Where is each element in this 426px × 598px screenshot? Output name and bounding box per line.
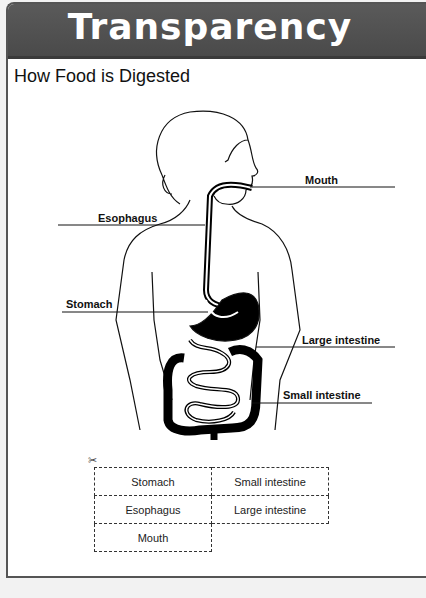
card-small-intestine[interactable]: Small intestine [212, 468, 329, 496]
card-esophagus[interactable]: Esophagus [95, 496, 212, 524]
label-mouth: Mouth [305, 174, 338, 186]
card-mouth[interactable]: Mouth [95, 524, 212, 552]
card-large-intestine[interactable]: Large intestine [212, 496, 329, 524]
label-large-intestine: Large intestine [302, 334, 380, 346]
card-stomach[interactable]: Stomach [95, 468, 212, 496]
empty-cell [212, 524, 329, 552]
label-esophagus: Esophagus [98, 212, 157, 224]
scissors-icon: ✂ [88, 454, 97, 467]
label-stomach: Stomach [66, 298, 112, 310]
cutout-label-cards: Stomach Small intestine Esophagus Large … [94, 467, 329, 552]
label-small-intestine: Small intestine [283, 389, 361, 401]
